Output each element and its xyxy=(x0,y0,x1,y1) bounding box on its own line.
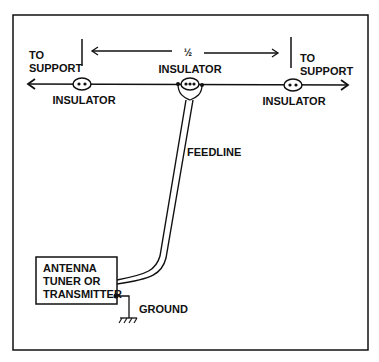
center-insulator-label: INSULATOR xyxy=(158,63,221,75)
right-insulator-icon xyxy=(284,79,302,91)
ground-label: GROUND xyxy=(139,303,188,315)
tuner-label-line-2: TUNER OR xyxy=(43,275,101,287)
tuner-label-line-1: ANTENNA xyxy=(43,262,97,274)
dipole-diagram: ½ ANTENNA TUNER OR TRANSMITTER xyxy=(0,0,379,362)
right-support-label-line-2: SUPPORT xyxy=(300,65,353,77)
ground-icon xyxy=(114,294,138,324)
left-support-label-line-2: SUPPORT xyxy=(29,62,82,74)
half-wave-label: ½ xyxy=(184,47,192,58)
center-insulator-icon xyxy=(176,78,204,100)
tuner-label-line-3: TRANSMITTER xyxy=(43,288,122,300)
feedline xyxy=(117,100,193,284)
right-insulator-label: INSULATOR xyxy=(262,95,325,107)
left-insulator-label: INSULATOR xyxy=(52,94,115,106)
right-support-label-line-1: TO xyxy=(300,52,316,64)
left-insulator-icon xyxy=(73,78,91,90)
left-support-label-line-1: TO xyxy=(29,49,45,61)
feedline-label: FEEDLINE xyxy=(187,146,241,158)
